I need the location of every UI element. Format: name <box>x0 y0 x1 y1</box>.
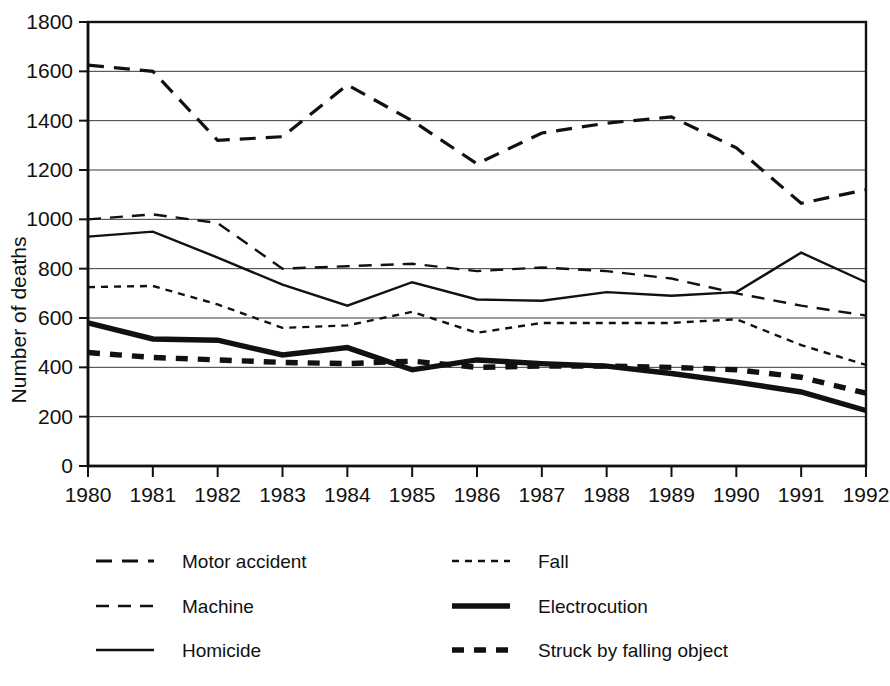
x-tick-label: 1990 <box>713 483 760 506</box>
page-bottom-margin <box>0 676 890 686</box>
figure-container: Number of deaths 02004006008001000120014… <box>0 0 890 686</box>
legend-item-electrocution[interactable]: Electrocution <box>452 596 648 617</box>
legend-item-struck-by-falling-object[interactable]: Struck by falling object <box>452 640 729 661</box>
y-tick-label: 1800 <box>26 10 73 33</box>
legend-item-motor-accident[interactable]: Motor accident <box>96 551 307 572</box>
y-tick-label: 0 <box>61 454 73 477</box>
x-tick-label: 1992 <box>843 483 890 506</box>
line-chart: Number of deaths 02004006008001000120014… <box>0 0 890 686</box>
x-tick-label: 1986 <box>454 483 501 506</box>
legend-label-machine: Machine <box>182 596 254 617</box>
x-tick-label: 1988 <box>583 483 630 506</box>
y-axis: 020040060080010001200140016001800 <box>26 10 866 477</box>
series-layer <box>88 65 866 410</box>
legend-item-fall[interactable]: Fall <box>452 551 569 572</box>
y-axis-title-text: Number of deaths <box>7 237 30 404</box>
x-tick-label: 1981 <box>129 483 176 506</box>
y-tick-label: 400 <box>38 355 73 378</box>
x-tick-label: 1991 <box>778 483 825 506</box>
series-line-fall <box>88 286 866 365</box>
series-line-electrocution <box>88 323 866 411</box>
legend-item-homicide[interactable]: Homicide <box>96 640 261 661</box>
legend-label-motor-accident: Motor accident <box>182 551 307 572</box>
y-tick-label: 600 <box>38 306 73 329</box>
legend-label-fall: Fall <box>538 551 569 572</box>
series-line-motor-accident <box>88 65 866 203</box>
x-tick-label: 1989 <box>648 483 695 506</box>
legend-item-machine[interactable]: Machine <box>96 596 254 617</box>
legend-label-electrocution: Electrocution <box>538 596 648 617</box>
x-tick-label: 1985 <box>389 483 436 506</box>
x-axis: 1980198119821983198419851986198719881989… <box>65 466 890 506</box>
y-axis-title: Number of deaths <box>7 237 30 404</box>
y-tick-label: 1000 <box>26 207 73 230</box>
x-tick-label: 1983 <box>259 483 306 506</box>
y-tick-label: 800 <box>38 257 73 280</box>
legend-label-homicide: Homicide <box>182 640 261 661</box>
x-tick-label: 1987 <box>518 483 565 506</box>
x-tick-label: 1982 <box>194 483 241 506</box>
chart-legend: Motor accidentMachineHomicideFallElectro… <box>96 551 729 661</box>
x-tick-label: 1980 <box>65 483 112 506</box>
legend-label-struck-by-falling-object: Struck by falling object <box>538 640 729 661</box>
plot-frame <box>88 22 866 466</box>
x-tick-label: 1984 <box>324 483 371 506</box>
y-tick-label: 1200 <box>26 158 73 181</box>
y-tick-label: 1400 <box>26 109 73 132</box>
y-tick-label: 200 <box>38 405 73 428</box>
y-tick-label: 1600 <box>26 59 73 82</box>
